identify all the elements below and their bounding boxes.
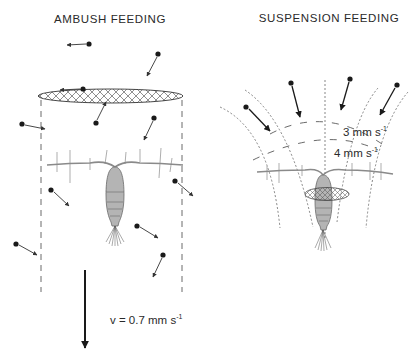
suspension-particles xyxy=(243,76,399,131)
sinking-velocity-label: v = 0.7 mm s-1 xyxy=(110,313,182,326)
flow-streamlines xyxy=(220,80,408,240)
flow-speed-outer-label: 3 mm s-1 xyxy=(343,125,387,138)
suspension-panel xyxy=(220,76,408,251)
ambush-particles xyxy=(13,41,193,277)
encounter-zone-ellipse xyxy=(38,89,183,103)
copepod-ambush xyxy=(47,148,183,246)
feeding-current-ellipse xyxy=(305,188,349,201)
flow-speed-inner-label: 4 mm s-1 xyxy=(334,146,378,159)
feeding-mode-diagram: AMBUSH FEEDING SUSPENSION FEEDING xyxy=(0,0,420,357)
ambush-panel xyxy=(13,41,193,348)
diagram-canvas xyxy=(0,0,420,357)
